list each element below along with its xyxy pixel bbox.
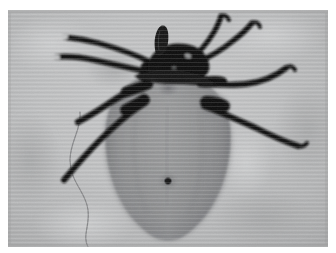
screenshot-root: tick: [0, 0, 336, 253]
photograph-canvas: [8, 10, 328, 247]
film-grain: [8, 10, 328, 247]
tick-dorsal-photograph: tick: [8, 10, 328, 247]
